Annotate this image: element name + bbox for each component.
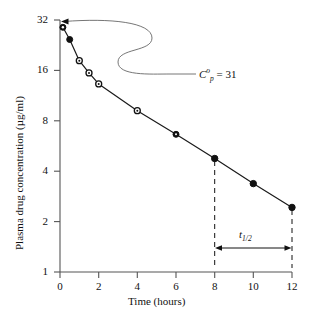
y-axis-title: Plasma drug concentration (µg/ml): [14, 96, 25, 250]
half-life-arrowhead-left: [215, 245, 222, 250]
x-tick-label-12: 12: [282, 281, 302, 292]
data-point: [250, 180, 256, 186]
intercept-subscript: p: [210, 74, 214, 83]
y-axis-ticks: [54, 20, 60, 272]
x-axis-title: Time (hours): [128, 296, 185, 307]
y-tick-label-1: 1: [16, 266, 48, 277]
x-tick-label-6: 6: [166, 281, 186, 292]
x-axis-ticks: [60, 272, 292, 278]
intercept-value: 31: [226, 68, 237, 80]
data-point-center: [88, 72, 90, 74]
data-point-center: [78, 60, 80, 62]
data-point: [289, 204, 295, 210]
half-life-subscript: 1/2: [242, 234, 252, 243]
concentration-curve: [63, 27, 292, 207]
data-point-center: [62, 26, 64, 28]
intercept-operator: =: [217, 68, 223, 80]
intercept-arrowhead: [61, 19, 69, 25]
data-point-center: [175, 133, 177, 135]
data-point-markers: [60, 24, 295, 210]
y-tick-label-32: 32: [16, 14, 48, 25]
x-tick-label-10: 10: [243, 281, 263, 292]
data-point: [212, 155, 218, 161]
intercept-annotation: Cop = 31: [199, 67, 237, 82]
data-point: [67, 37, 73, 43]
chart-figure: 32 16 8 4 2 1 0 2 4 6 8 10 12 Plasma dru…: [0, 0, 314, 323]
data-point-center: [98, 83, 100, 85]
x-tick-label-0: 0: [50, 281, 70, 292]
y-tick-label-16: 16: [16, 64, 48, 75]
x-tick-label-8: 8: [205, 281, 225, 292]
half-life-annotation: t1/2: [239, 229, 252, 243]
half-life-arrowhead-right: [285, 245, 292, 250]
data-point-center: [136, 110, 138, 112]
x-tick-label-4: 4: [127, 281, 147, 292]
x-tick-label-2: 2: [89, 281, 109, 292]
